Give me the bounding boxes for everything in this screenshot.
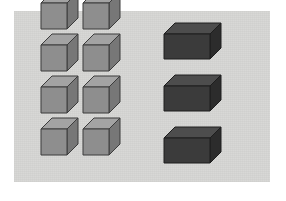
figure-root xyxy=(0,0,286,201)
cube-5-front-face xyxy=(41,87,67,113)
solid-cube-2 xyxy=(83,0,120,29)
cube-8-front-face xyxy=(83,129,109,155)
cube-1-front-face xyxy=(41,3,67,29)
cube-7-front-face xyxy=(41,129,67,155)
solid-cube-1 xyxy=(41,0,78,29)
solid-cube-6 xyxy=(83,76,120,113)
solid-cube-4 xyxy=(83,34,120,71)
cube-4-front-face xyxy=(83,45,109,71)
cube-1-side-face xyxy=(67,0,78,29)
cube-3-front-face xyxy=(41,45,67,71)
solid-block-1 xyxy=(164,23,221,59)
solid-cube-7 xyxy=(41,118,78,155)
solid-cube-8 xyxy=(83,118,120,155)
solid-block-3 xyxy=(164,127,221,163)
cube-2-side-face xyxy=(109,0,120,29)
large-blocks-group xyxy=(164,23,221,163)
illustration-panel xyxy=(14,11,270,182)
solid-cube-5 xyxy=(41,76,78,113)
block-1-front-face xyxy=(164,34,210,59)
block-2-front-face xyxy=(164,86,210,111)
shapes-layer xyxy=(14,11,270,182)
cube-2-front-face xyxy=(83,3,109,29)
solid-block-2 xyxy=(164,75,221,111)
small-cubes-group xyxy=(41,0,120,155)
solid-cube-3 xyxy=(41,34,78,71)
block-3-front-face xyxy=(164,138,210,163)
cube-6-front-face xyxy=(83,87,109,113)
